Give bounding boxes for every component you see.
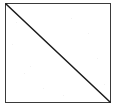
square-with-diagonal-figure [0,0,119,109]
figure-canvas [0,0,119,109]
